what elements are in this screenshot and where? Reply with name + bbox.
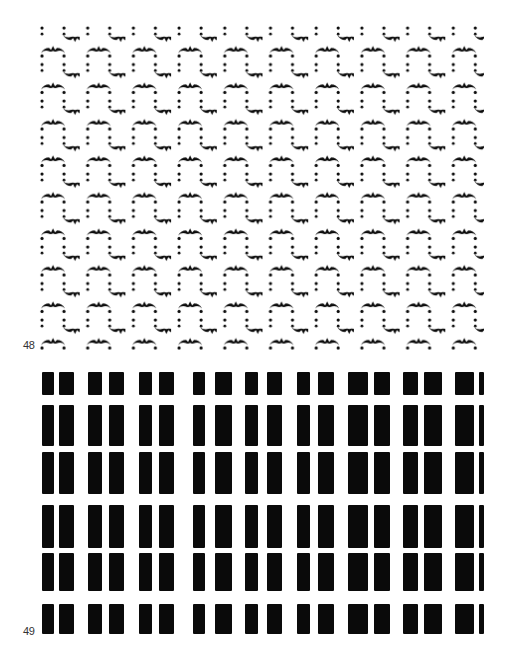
bar [139,452,152,494]
bar [403,553,418,591]
bar [88,452,102,494]
bar [297,405,310,446]
bar [297,553,310,591]
bar [59,452,74,494]
bar [59,604,74,634]
bar [374,405,390,446]
bar [455,505,474,548]
bar [215,372,232,395]
bar [267,604,282,634]
bar [424,405,442,446]
bar [318,372,334,395]
bar [374,553,390,591]
bar [348,553,368,591]
bar [88,405,102,446]
bar [193,452,205,494]
bar [479,604,484,634]
bar [159,505,174,548]
bar [455,372,474,395]
bar [109,553,124,591]
bar [109,372,124,395]
bar [374,372,390,395]
bar [42,553,54,591]
bar [318,405,334,446]
bar [88,604,102,634]
bar [348,405,368,446]
bar [109,505,124,548]
bar [479,405,484,446]
bar [479,505,484,548]
bar [139,372,152,395]
bar [109,452,124,494]
bar [479,372,484,395]
figure-49-bars [0,0,512,653]
bar [424,372,442,395]
bar [318,604,334,634]
bar [139,505,152,548]
bar [215,405,232,446]
bar [215,505,232,548]
bar [479,452,484,494]
bar [403,505,418,548]
bar [267,505,282,548]
bar [455,604,474,634]
bar [42,505,54,548]
bar [159,372,174,395]
bar [159,553,174,591]
bar [109,405,124,446]
bar [267,452,282,494]
bar [109,604,124,634]
bar [424,505,442,548]
bar [245,553,258,591]
bar [297,505,310,548]
bar [245,452,258,494]
bar [193,604,205,634]
bar [59,405,74,446]
bar [403,604,418,634]
bar [193,405,205,446]
bar [267,553,282,591]
bar [88,553,102,591]
bar [348,452,368,494]
bar [59,505,74,548]
bar [139,405,152,446]
bar [59,553,74,591]
bar [455,553,474,591]
bar [403,372,418,395]
bar [42,452,54,494]
bar [245,372,258,395]
bar [215,604,232,634]
bar [159,405,174,446]
bar [403,452,418,494]
bar [193,553,205,591]
bar [318,553,334,591]
bar [267,405,282,446]
bar [297,452,310,494]
bar [403,405,418,446]
bar [455,405,474,446]
bar [374,604,390,634]
bar [42,405,54,446]
bar [348,505,368,548]
bar [455,452,474,494]
bar [215,553,232,591]
bar [424,553,442,591]
figure-number-49: 49 [23,625,35,637]
bar [245,405,258,446]
bar [424,452,442,494]
bar [348,372,368,395]
bar [267,372,282,395]
bar [318,505,334,548]
bar [139,604,152,634]
bar [88,372,102,395]
bar [245,505,258,548]
bar [88,505,102,548]
bar [424,604,442,634]
bar [215,452,232,494]
bar [297,372,310,395]
bar [193,505,205,548]
bar [159,604,174,634]
bar [245,604,258,634]
bar [59,372,74,395]
bar [374,452,390,494]
